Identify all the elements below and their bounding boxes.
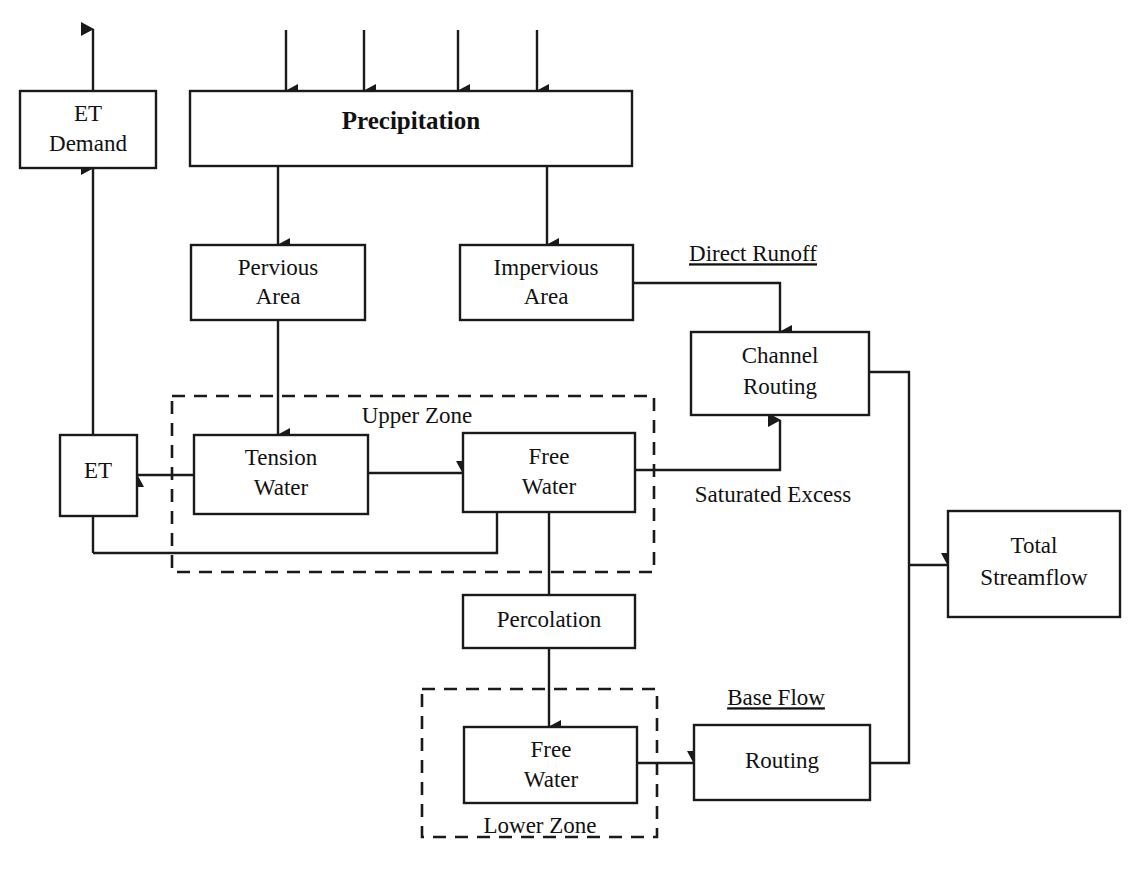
node-upper-free-water[interactable]: Free Water <box>463 433 635 512</box>
et-label: ET <box>84 458 112 483</box>
node-channel-routing[interactable]: Channel Routing <box>691 332 869 415</box>
direct-runoff-path <box>633 283 780 332</box>
node-percolation[interactable]: Percolation <box>463 595 635 648</box>
pervious-area-label-line1: Pervious <box>238 255 319 280</box>
et-demand-label-line1: ET <box>74 101 102 126</box>
node-pervious-area[interactable]: Pervious Area <box>191 245 365 320</box>
node-impervious-area[interactable]: Impervious Area <box>460 245 633 320</box>
et-demand-label-line2: Demand <box>49 131 127 156</box>
saturated-excess-label: Saturated Excess <box>695 482 852 507</box>
node-total-streamflow[interactable]: Total Streamflow <box>948 511 1120 617</box>
channel-routing-to-trunk-path <box>869 372 909 565</box>
node-et-demand[interactable]: ET Demand <box>20 91 156 168</box>
lower-zone-label: Lower Zone <box>483 813 596 838</box>
direct-runoff-label: Direct Runoff <box>689 241 817 266</box>
diagram-canvas: ET Demand Precipitation Pervious Area Im… <box>0 0 1144 875</box>
upper-free-water-label-line2: Water <box>522 474 577 499</box>
total-streamflow-label-line2: Streamflow <box>980 565 1088 590</box>
node-precipitation[interactable]: Precipitation <box>190 91 632 166</box>
lower-free-water-label-line2: Water <box>524 767 579 792</box>
total-streamflow-box[interactable] <box>948 511 1120 617</box>
precipitation-label: Precipitation <box>342 107 480 134</box>
baseflow-routing-to-trunk-path <box>870 565 909 763</box>
upper-tension-water-label-line2: Water <box>254 475 309 500</box>
percolation-label: Percolation <box>497 607 602 632</box>
pervious-area-label-line2: Area <box>256 284 301 309</box>
node-lower-free-water[interactable]: Free Water <box>464 727 637 803</box>
hydrologic-model-diagram: ET Demand Precipitation Pervious Area Im… <box>0 0 1144 875</box>
total-streamflow-label-line1: Total <box>1011 533 1058 558</box>
upper-free-water-label-line1: Free <box>529 444 570 469</box>
node-baseflow-routing[interactable]: Routing <box>694 725 870 800</box>
precipitation-input-arrows <box>286 30 537 91</box>
upper-zone-label: Upper Zone <box>362 403 473 428</box>
saturated-excess-path <box>635 420 780 470</box>
base-flow-label: Base Flow <box>727 685 825 710</box>
baseflow-routing-label: Routing <box>745 748 820 773</box>
channel-routing-label-line1: Channel <box>742 343 819 368</box>
impervious-area-label-line2: Area <box>524 284 569 309</box>
upper-tension-water-label-line1: Tension <box>245 445 318 470</box>
node-upper-tension-water[interactable]: Tension Water <box>194 435 368 514</box>
impervious-area-label-line1: Impervious <box>494 255 599 280</box>
channel-routing-label-line2: Routing <box>743 374 818 399</box>
node-et[interactable]: ET <box>60 435 137 516</box>
free-water-to-et-return-path <box>93 512 497 553</box>
lower-free-water-label-line1: Free <box>531 737 572 762</box>
